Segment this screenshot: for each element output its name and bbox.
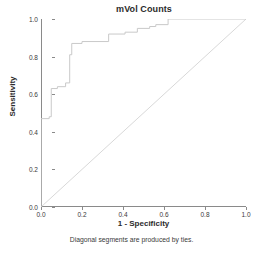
chart-footnote: Diagonal segments are produced by ties.: [0, 236, 263, 243]
chart-title: mVol Counts: [41, 4, 247, 14]
y-tick-mark: [52, 19, 55, 20]
x-tick-mark: [205, 207, 206, 210]
x-tick-mark: [164, 207, 165, 210]
y-axis-title: Sensitivity: [8, 57, 17, 137]
y-tick-label: 1.0: [18, 16, 38, 23]
x-tick-label: 1.0: [234, 211, 258, 218]
y-tick-label: 0.8: [18, 53, 38, 60]
y-tick-mark: [52, 132, 55, 133]
y-axis-ticks: 0.00.20.40.60.81.0: [14, 19, 38, 207]
x-tick-label: 0.0: [29, 211, 53, 218]
x-tick-label: 0.2: [70, 211, 94, 218]
x-tick-mark: [82, 207, 83, 210]
y-tick-label: 0.2: [18, 166, 38, 173]
x-axis-title: 1 - Specificity: [41, 219, 246, 228]
x-tick-label: 0.8: [193, 211, 217, 218]
x-tick-label: 0.6: [152, 211, 176, 218]
y-tick-mark: [52, 94, 55, 95]
roc-chart-figure: mVol Counts 0.00.20.40.60.81.0 0.00.20.4…: [0, 0, 263, 255]
x-tick-mark: [41, 207, 42, 210]
y-tick-mark: [52, 57, 55, 58]
x-tick-label: 0.4: [111, 211, 135, 218]
plot-area: [41, 19, 246, 207]
y-tick-mark: [52, 169, 55, 170]
x-tick-mark: [123, 207, 124, 210]
x-tick-mark: [246, 207, 247, 210]
y-tick-label: 0.6: [18, 91, 38, 98]
y-tick-label: 0.4: [18, 128, 38, 135]
y-tick-label: 0.0: [18, 204, 38, 211]
